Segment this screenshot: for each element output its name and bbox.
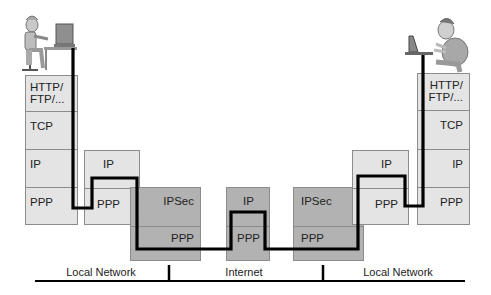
layer-ppp: PPP <box>227 226 269 261</box>
internet-router: IP PPP <box>226 187 270 261</box>
left-host-stack: HTTP/ FTP/... TCP IP PPP <box>25 75 78 225</box>
left-ipsec-gateway: IPSec PPP <box>130 187 201 261</box>
label-right-local-network: Local Network <box>363 266 433 278</box>
right-host-stack: HTTP/ FTP/... TCP IP PPP <box>417 73 470 225</box>
layer-ppp: PPP <box>131 226 200 261</box>
right-router-stack: IP PPP <box>352 150 409 225</box>
label-internet: Internet <box>225 266 262 278</box>
ipsec-protocol-diagram: HTTP/ FTP/... TCP IP PPP IP PPP IPSec PP… <box>0 0 491 295</box>
layer-ip: IP <box>26 149 77 187</box>
layer-ip: IP <box>353 151 408 188</box>
layer-ipsec: IPSec <box>131 188 200 226</box>
layer-ppp: PPP <box>26 187 77 225</box>
layer-http-ftp: HTTP/ FTP/... <box>26 76 77 111</box>
layer-ppp: PPP <box>294 226 363 261</box>
layer-http-ftp: HTTP/ FTP/... <box>418 74 469 110</box>
layer-ip: IP <box>85 151 139 188</box>
layer-ppp: PPP <box>418 187 469 225</box>
layer-ip: IP <box>418 149 469 187</box>
layer-ppp: PPP <box>353 188 408 225</box>
layer-tcp: TCP <box>418 110 469 149</box>
layer-tcp: TCP <box>26 111 77 149</box>
layer-ip: IP <box>227 188 269 226</box>
label-left-local-network: Local Network <box>66 266 136 278</box>
